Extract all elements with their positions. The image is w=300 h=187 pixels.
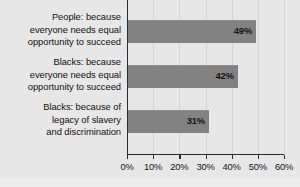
- gridline-60: [284, 0, 285, 155]
- x-tick-10: [153, 155, 154, 159]
- category-axis-labels: People: because everyone needs equal opp…: [0, 0, 124, 155]
- category-label-0-line-0: People: because: [0, 11, 121, 24]
- bar-1: 42%: [128, 65, 238, 88]
- bottom-margin-strip: [0, 178, 300, 187]
- category-label-2-line-0: Blacks: because of: [0, 101, 121, 114]
- x-axis-tick-labels: 0%10%20%30%40%50%60%: [127, 161, 284, 175]
- category-label-2: Blacks: because of legacy of slavery and…: [0, 101, 121, 139]
- category-label-0-line-2: opportunity to succeed: [0, 36, 121, 49]
- bar-value-label-0: 49%: [234, 25, 252, 36]
- x-tick-20: [179, 155, 180, 159]
- category-label-1: Blacks: because everyone needs equal opp…: [0, 56, 121, 94]
- category-label-2-line-1: legacy of slavery: [0, 114, 121, 127]
- x-tick-40: [232, 155, 233, 159]
- x-tick-0: [127, 155, 128, 159]
- x-tick-50: [258, 155, 259, 159]
- x-tick-30: [206, 155, 207, 159]
- category-label-1-line-1: everyone needs equal: [0, 69, 121, 82]
- plot-area: 49% 42% 31%: [127, 0, 284, 155]
- category-label-1-line-0: Blacks: because: [0, 56, 121, 69]
- bar-0: 49%: [128, 20, 256, 43]
- category-label-2-line-2: and discrimination: [0, 126, 121, 139]
- category-label-0: People: because everyone needs equal opp…: [0, 11, 121, 49]
- bar-2: 31%: [128, 110, 209, 133]
- bar-chart-figure: People: because everyone needs equal opp…: [0, 0, 300, 187]
- category-label-0-line-1: everyone needs equal: [0, 24, 121, 37]
- bar-value-label-1: 42%: [215, 70, 233, 81]
- bar-value-label-2: 31%: [187, 115, 205, 126]
- x-tick-label-60: 60%: [267, 161, 300, 172]
- x-tick-60: [284, 155, 285, 159]
- gridline-50: [258, 0, 259, 155]
- category-label-1-line-2: opportunity to succeed: [0, 81, 121, 94]
